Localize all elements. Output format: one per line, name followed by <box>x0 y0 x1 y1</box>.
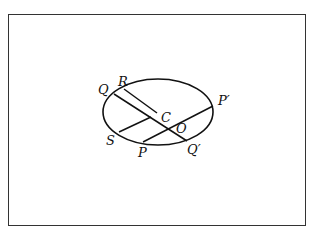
label-Q: Q <box>98 82 109 97</box>
label-C: C <box>161 110 171 125</box>
segment-S-to-QQ <box>119 117 151 132</box>
label-P: P <box>137 145 147 160</box>
label-P-prime: P′ <box>217 93 230 108</box>
label-O: O <box>176 121 187 136</box>
segment-RC <box>124 89 157 113</box>
point-labels: QRCSPQ′P′O <box>98 74 230 160</box>
label-S: S <box>106 133 115 148</box>
label-R: R <box>117 74 128 89</box>
ellipse-diagram: QRCSPQ′P′O <box>0 0 318 235</box>
label-Q-prime: Q′ <box>187 142 201 157</box>
